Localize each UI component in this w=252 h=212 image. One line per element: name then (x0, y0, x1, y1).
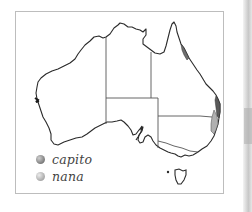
australia-mainland-outline (36, 22, 220, 157)
circle-dot-icon (36, 172, 45, 181)
tasmania-outline (175, 169, 186, 184)
map-legend: capito nana (36, 151, 92, 185)
king-island (167, 171, 169, 173)
legend-item-capito: capito (36, 151, 92, 168)
legend-item-nana: nana (36, 168, 92, 185)
legend-label: nana (52, 169, 84, 184)
legend-label: capito (52, 152, 92, 167)
circle-dot-icon (36, 155, 45, 164)
